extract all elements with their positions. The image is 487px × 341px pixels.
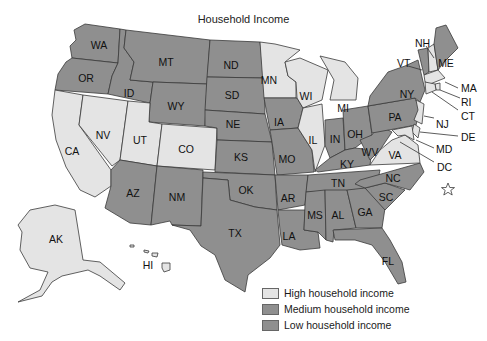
label-AK: AK <box>49 233 63 245</box>
label-AR: AR <box>281 192 296 204</box>
label-NV: NV <box>96 129 111 141</box>
label-GA: GA <box>357 206 372 218</box>
label-VA: VA <box>388 149 401 161</box>
legend-swatch-low <box>262 320 279 331</box>
label-CA: CA <box>65 145 80 157</box>
label-UT: UT <box>133 134 148 146</box>
legend-item-medium: Medium household income <box>262 301 410 317</box>
label-VT: VT <box>397 57 411 69</box>
label-CT: CT <box>461 110 476 122</box>
label-WV: WV <box>362 146 379 158</box>
label-ND: ND <box>223 59 239 71</box>
legend-swatch-high <box>262 288 279 299</box>
state-labels: WA OR CA NV ID MT WY UT CO AZ NM ND SD N… <box>0 0 487 341</box>
label-IA: IA <box>274 116 284 128</box>
label-HI: HI <box>143 259 154 271</box>
label-OK: OK <box>238 184 253 196</box>
legend: High household income Medium household i… <box>262 285 410 333</box>
label-OR: OR <box>78 72 94 84</box>
label-FL: FL <box>382 255 394 267</box>
legend-label-medium: Medium household income <box>284 303 410 315</box>
legend-item-high: High household income <box>262 285 410 301</box>
label-TX: TX <box>228 227 241 239</box>
label-IL: IL <box>309 134 318 146</box>
label-WA: WA <box>91 39 108 51</box>
label-NC: NC <box>385 172 401 184</box>
legend-item-low: Low household income <box>262 317 410 333</box>
label-AL: AL <box>332 209 345 221</box>
label-MD: MD <box>436 143 453 155</box>
label-OH: OH <box>347 128 363 140</box>
label-MO: MO <box>279 153 296 165</box>
label-DC: DC <box>437 161 453 173</box>
label-NJ: NJ <box>436 118 449 130</box>
label-SD: SD <box>225 89 240 101</box>
label-LA: LA <box>283 230 296 242</box>
label-ME: ME <box>438 57 454 69</box>
label-KY: KY <box>340 158 354 170</box>
legend-label-high: High household income <box>284 287 394 299</box>
label-IN: IN <box>330 133 341 145</box>
label-SC: SC <box>379 191 394 203</box>
label-ID: ID <box>124 87 135 99</box>
label-MS: MS <box>307 209 323 221</box>
label-RI: RI <box>461 96 472 108</box>
label-WY: WY <box>168 100 185 112</box>
legend-swatch-medium <box>262 304 279 315</box>
label-DE: DE <box>461 131 476 143</box>
label-NY: NY <box>400 88 415 100</box>
label-MI: MI <box>337 102 349 114</box>
label-NM: NM <box>169 191 185 203</box>
label-KS: KS <box>234 151 248 163</box>
label-PA: PA <box>388 111 401 123</box>
label-WI: WI <box>300 90 313 102</box>
label-NE: NE <box>226 118 241 130</box>
label-NH: NH <box>415 37 430 49</box>
label-MA: MA <box>461 82 477 94</box>
legend-label-low: Low household income <box>284 319 391 331</box>
label-TN: TN <box>331 177 345 189</box>
label-AZ: AZ <box>126 187 140 199</box>
label-MN: MN <box>261 74 277 86</box>
label-CO: CO <box>178 143 194 155</box>
label-MT: MT <box>158 56 174 68</box>
